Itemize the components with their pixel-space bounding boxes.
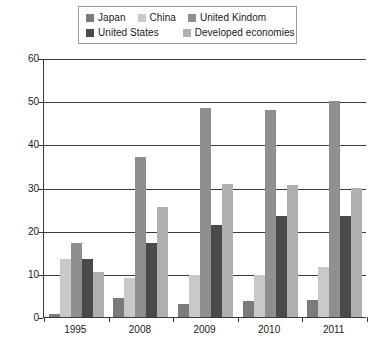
y-tick-label-0: 0 [5,313,39,323]
bar-2009-china [189,275,200,317]
x-tick-mark-2009 [238,317,239,322]
bar-2011-united-kindom [329,101,340,317]
legend-entry-china: China [138,13,176,23]
bar-2010-united-kindom [265,110,276,317]
plot-area [43,59,366,318]
bar-2011-china [318,267,329,317]
bar-2011-united-states [340,216,351,317]
bar-group-2010 [238,59,303,317]
bar-1995-united-kindom [71,243,82,317]
bar-2008-united-kindom [135,157,146,317]
legend-entry-united-states: United States [86,28,159,38]
bar-2010-developed-economies [287,185,298,317]
x-tick-mark-1995 [109,317,110,322]
x-tick-mark-2011 [367,317,368,322]
bar-1995-china [60,259,71,317]
y-tick-label-40: 40 [5,140,39,150]
x-tick-label-2008: 2008 [110,325,170,335]
legend-row-2: United States Developed economies [84,25,291,40]
legend-swatch-developed-economies [183,29,191,37]
y-tick-mark-0 [38,318,43,319]
bar-2011-developed-economies [351,188,362,317]
bar-2008-developed-economies [157,207,168,317]
legend-entry-japan: Japan [86,13,126,23]
legend-swatch-united-kindom [188,14,196,22]
bar-2009-united-states [211,225,222,317]
bar-2010-united-states [276,216,287,317]
bar-2008-china [124,278,135,317]
y-tick-label-60: 60 [5,54,39,64]
bar-2009-united-kindom [200,108,211,317]
bar-2011-japan [307,300,318,317]
y-tick-label-30: 30 [5,184,39,194]
y-tick-label-10: 10 [5,270,39,280]
legend-swatch-china [138,14,146,22]
bar-2008-japan [113,298,124,317]
legend-label-united-states: United States [98,28,159,38]
legend-label-united-kindom: United Kindom [200,13,266,23]
x-tick-label-2010: 2010 [239,325,299,335]
chart-legend: Japan China United Kindom United States … [78,6,297,44]
legend-row-1: Japan China United Kindom [84,10,291,25]
y-tick-label-20: 20 [5,227,39,237]
legend-entry-developed-economies: Developed economies [183,28,295,38]
x-tick-label-2009: 2009 [175,325,235,335]
bar-chart: Japan China United Kindom United States … [0,0,376,356]
bar-2008-united-states [146,243,157,317]
legend-entry-united-kindom: United Kindom [188,13,266,23]
legend-swatch-united-states [86,29,94,37]
x-tick-label-1995: 1995 [45,325,105,335]
bar-group-2011 [302,59,367,317]
legend-label-developed-economies: Developed economies [195,28,295,38]
bar-group-1995 [44,59,109,317]
bar-2009-developed-economies [222,184,233,317]
x-tick-label-2011: 2011 [304,325,364,335]
bar-1995-developed-economies [93,272,104,317]
x-tick-mark-2008 [173,317,174,322]
bar-1995-united-states [82,259,93,317]
y-tick-label-50: 50 [5,97,39,107]
y-axis: 0102030405060 [0,59,39,318]
bar-1995-japan [49,314,60,317]
bar-group-2009 [173,59,238,317]
bar-2010-china [254,275,265,317]
legend-label-china: China [150,13,176,23]
bar-group-2008 [109,59,174,317]
bar-2010-japan [243,301,254,317]
x-tick-mark-2010 [302,317,303,322]
legend-swatch-japan [86,14,94,22]
bar-2009-japan [178,304,189,317]
legend-label-japan: Japan [98,13,126,23]
x-tick-mark-origin [44,317,45,322]
